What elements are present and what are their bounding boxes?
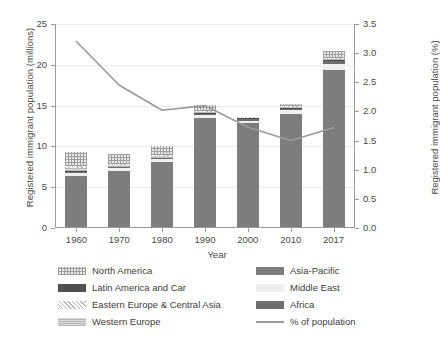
y-axis-left-tick-label: 5 — [19, 182, 47, 192]
legend-label: Africa — [290, 299, 314, 310]
y-axis-right-tick — [355, 53, 359, 54]
y-axis-title-right: Registered immigrant population (%) — [429, 13, 440, 223]
y-axis-right-tick — [355, 170, 359, 171]
x-axis-tick — [162, 228, 163, 232]
legend-label: North America — [92, 265, 152, 276]
y-axis-right-tick-label: 1.0 — [363, 165, 393, 175]
x-axis-tick — [291, 228, 292, 232]
x-axis-tick — [334, 228, 335, 232]
legend-label: Eastern Europe & Central Asia — [92, 299, 221, 310]
legend-swatch-asia — [256, 267, 284, 275]
chart-legend: North AmericaAsia-PacificLatin America a… — [58, 265, 418, 333]
y-axis-right-tick-label: 3.0 — [363, 48, 393, 58]
x-axis-tick-label: 1970 — [97, 234, 141, 245]
x-axis-tick-label: 2000 — [226, 234, 270, 245]
legend-swatch-latin — [58, 284, 86, 292]
legend-item[interactable]: Middle East — [256, 282, 340, 293]
legend-item[interactable]: % of population — [256, 316, 356, 327]
y-axis-right-tick — [355, 228, 359, 229]
legend-item[interactable]: Africa — [256, 299, 314, 310]
x-axis-tick-label: 1960 — [54, 234, 98, 245]
y-axis-right-tick — [355, 24, 359, 25]
legend-swatch-me — [256, 284, 284, 292]
legend-item[interactable]: Eastern Europe & Central Asia — [58, 299, 221, 310]
y-axis-right-tick-label: 0.5 — [363, 194, 393, 204]
legend-row: Western Europe% of population — [58, 316, 418, 333]
plot-area: 0510152025 0.00.51.01.52.02.53.03.5 1960… — [55, 24, 355, 228]
legend-item[interactable]: Latin America and Car — [58, 282, 186, 293]
legend-label: Middle East — [290, 282, 340, 293]
legend-swatch-line-icon — [256, 318, 284, 326]
legend-label: % of population — [290, 316, 356, 327]
x-axis-tick — [76, 228, 77, 232]
x-axis-tick-label: 2017 — [312, 234, 356, 245]
y-axis-right-tick — [355, 199, 359, 200]
y-axis-left-tick-label: 10 — [19, 141, 47, 151]
y-axis-left-tick-label: 0 — [19, 223, 47, 233]
legend-row: Eastern Europe & Central AsiaAfrica — [58, 299, 418, 316]
legend-row: North AmericaAsia-Pacific — [58, 265, 418, 282]
legend-item[interactable]: Asia-Pacific — [256, 265, 340, 276]
y-axis-left-tick-label: 15 — [19, 101, 47, 111]
y-axis-right-tick — [355, 141, 359, 142]
legend-item[interactable]: North America — [58, 265, 152, 276]
y-axis-right-tick — [355, 111, 359, 112]
x-axis-title: Year — [0, 249, 434, 260]
y-axis-right-tick-label: 3.5 — [363, 19, 393, 29]
y-axis-left-tick — [51, 228, 55, 229]
legend-swatch-africa — [256, 301, 284, 309]
x-axis-tick-label: 2010 — [269, 234, 313, 245]
legend-label: Western Europe — [92, 316, 160, 327]
y-axis-right-tick-label: 2.5 — [363, 77, 393, 87]
x-axis-tick — [119, 228, 120, 232]
legend-swatch-weurope — [58, 318, 86, 326]
line-series-overlay — [55, 24, 355, 228]
x-axis-tick-label: 1980 — [140, 234, 184, 245]
y-axis-right-tick-label: 0.0 — [363, 223, 393, 233]
legend-label: Latin America and Car — [92, 282, 186, 293]
y-axis-left-tick-label: 25 — [19, 19, 47, 29]
y-axis-right-tick-label: 1.5 — [363, 136, 393, 146]
legend-label: Asia-Pacific — [290, 265, 340, 276]
x-axis-tick — [205, 228, 206, 232]
legend-row: Latin America and CarMiddle East — [58, 282, 418, 299]
percent-of-population-line — [55, 24, 355, 228]
legend-swatch-na — [58, 267, 86, 275]
y-axis-left-tick-label: 20 — [19, 60, 47, 70]
legend-swatch-eeurope — [58, 301, 86, 309]
x-axis-tick — [248, 228, 249, 232]
x-axis-tick-label: 1990 — [183, 234, 227, 245]
y-axis-right-tick-label: 2.0 — [363, 106, 393, 116]
legend-item[interactable]: Western Europe — [58, 316, 160, 327]
y-axis-right-tick — [355, 82, 359, 83]
